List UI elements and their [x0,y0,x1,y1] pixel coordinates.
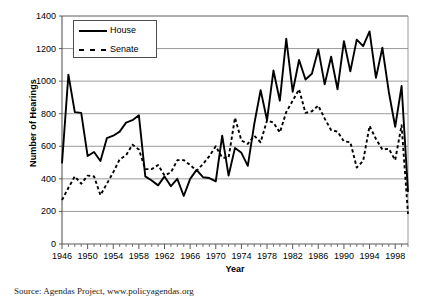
legend-item-senate: Senate [74,40,158,59]
legend-swatch-senate-line-icon [79,49,107,51]
legend-swatch-house-line-icon [79,30,107,32]
source-note: Source: Agendas Project, www.policyagend… [14,286,194,296]
legend-label-senate: Senate [110,44,139,54]
plot-area [0,0,427,305]
legend-label-house: House [110,25,136,35]
chart-figure: Number of Hearings Year 0200400600800100… [0,0,427,305]
legend: House Senate [73,20,157,58]
legend-item-house: House [74,21,158,40]
